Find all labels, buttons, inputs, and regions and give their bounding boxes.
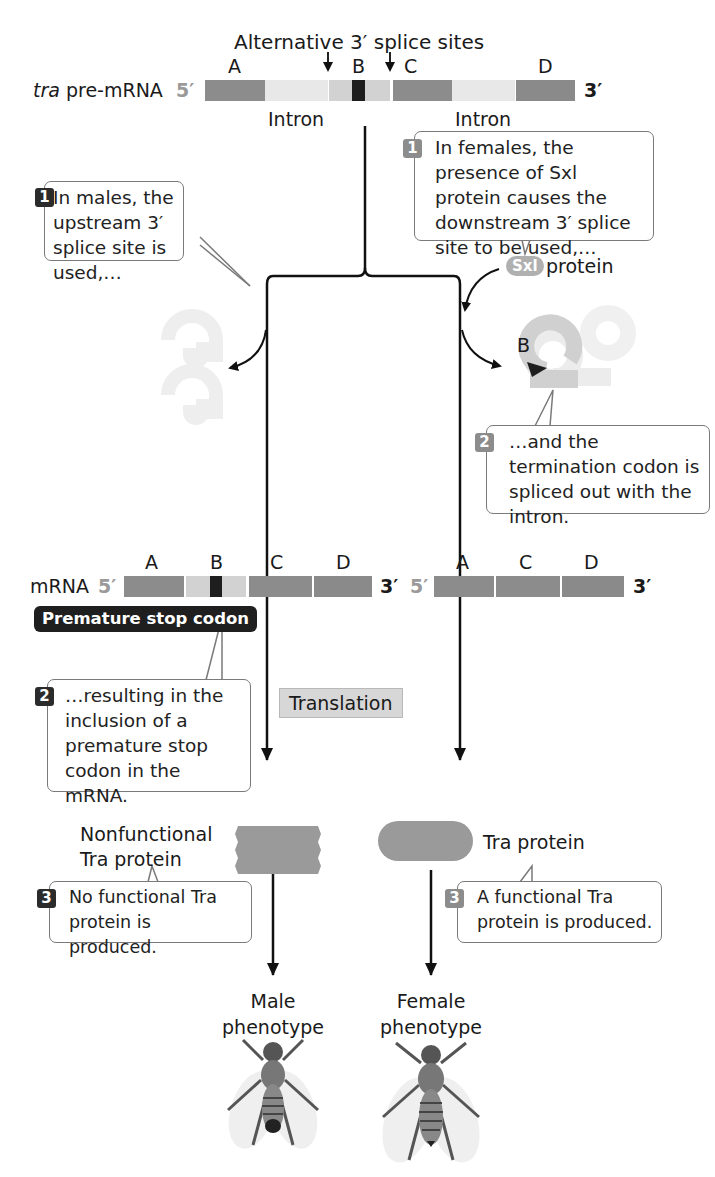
premature-stop-codon-badge: Premature stop codon <box>34 606 257 632</box>
callout-female-step-1: 1 In females, the presence of Sxl protei… <box>414 131 654 241</box>
female-mrna-5prime: 5′ <box>410 575 428 597</box>
male-mrna-5prime: 5′ <box>98 575 116 597</box>
male-exon-a-label: A <box>145 551 158 573</box>
pre-mrna-5prime: 5′ <box>176 79 194 101</box>
male-path-line <box>267 126 365 760</box>
male-phenotype-label: Male phenotype <box>213 988 333 1040</box>
female-exon-c-label: C <box>519 551 532 573</box>
stop-codon-segment <box>352 80 365 101</box>
exon-d-label: D <box>538 55 553 77</box>
exon-a-label: A <box>228 55 241 77</box>
callout-male-step-3: 3 No functional Tra protein is produced. <box>49 881 252 943</box>
step-number-badge: 3 <box>37 889 56 908</box>
callout-text: …resulting in the inclusion of a prematu… <box>65 683 242 808</box>
male-exon-b-label: B <box>210 551 223 573</box>
callout-text: No functional Tra protein is produced. <box>69 885 243 960</box>
exon-d <box>516 80 575 101</box>
pre-mrna-label: tra pre-mRNA <box>33 79 163 101</box>
exon-b-label: B <box>352 55 365 77</box>
callout-text: …and the termination codon is spliced ou… <box>509 429 701 529</box>
callout-male-step-1: 1 In males, the upstream 3′ splice site … <box>44 181 184 261</box>
nonfunctional-protein-label-line2: Tra protein <box>80 848 182 870</box>
intron-1 <box>265 80 328 101</box>
step-number-badge: 1 <box>35 188 54 207</box>
callout-text: In females, the presence of Sxl protein … <box>435 135 645 260</box>
functional-protein-icon <box>378 821 473 861</box>
female-phenotype-label: Female phenotype <box>371 988 491 1040</box>
step-number-badge: 3 <box>445 889 464 908</box>
male-mrna-3prime: 3′ <box>380 575 398 597</box>
callout-text: A functional Tra protein is produced. <box>477 885 653 935</box>
exon-c-label: C <box>404 55 417 77</box>
exon-a <box>205 80 265 101</box>
lariat-b-label: B <box>517 334 530 356</box>
female-fly-icon <box>373 1043 490 1169</box>
male-exon-b-right <box>222 576 246 597</box>
sxl-protein-label: protein <box>546 255 614 277</box>
male-fly-icon <box>220 1040 327 1155</box>
male-exon-a <box>124 576 184 597</box>
alternative-splice-sites-title: Alternative 3′ splice sites <box>234 31 484 53</box>
intron-2-label: Intron <box>455 108 511 130</box>
exon-c <box>393 80 452 101</box>
intron-2 <box>452 80 515 101</box>
callout-female-step-3: 3 A functional Tra protein is produced. <box>457 881 662 943</box>
male-lariat-icon <box>168 316 216 418</box>
male-exon-b-left <box>186 576 210 597</box>
exon-b-left <box>329 80 352 101</box>
male-exon-d-label: D <box>336 551 351 573</box>
callout-male-step-2: 2 …resulting in the inclusion of a prema… <box>47 679 251 792</box>
translation-label: Translation <box>279 688 403 718</box>
tra-protein-label: Tra protein <box>483 831 585 853</box>
step-number-badge: 2 <box>475 433 494 452</box>
sxl-protein-badge: Sxl <box>506 256 544 276</box>
male-exon-d <box>314 576 372 597</box>
female-exon-d-label: D <box>584 551 599 573</box>
step-number-badge: 1 <box>403 139 422 158</box>
nonfunctional-protein-label-line1: Nonfunctional <box>80 823 212 845</box>
female-path-line <box>365 268 460 760</box>
female-exon-d <box>562 576 624 597</box>
pre-mrna-3prime: 3′ <box>584 79 602 101</box>
exon-b-right <box>365 80 390 101</box>
male-exon-c <box>249 576 312 597</box>
mrna-label: mRNA <box>30 575 89 597</box>
callout-female-step-2: 2 …and the termination codon is spliced … <box>486 425 710 514</box>
female-exon-a-label: A <box>456 551 469 573</box>
step-number-badge: 2 <box>35 687 54 706</box>
female-lariat-icon <box>526 313 628 388</box>
nonfunctional-protein-icon <box>235 826 321 874</box>
male-stop-codon-segment <box>210 576 222 597</box>
female-exon-c <box>496 576 560 597</box>
intron-1-label: Intron <box>268 108 324 130</box>
female-mrna-3prime: 3′ <box>633 575 651 597</box>
female-exon-a <box>434 576 494 597</box>
male-exon-c-label: C <box>270 551 283 573</box>
callout-text: In males, the upstream 3′ splice site is… <box>53 185 175 285</box>
